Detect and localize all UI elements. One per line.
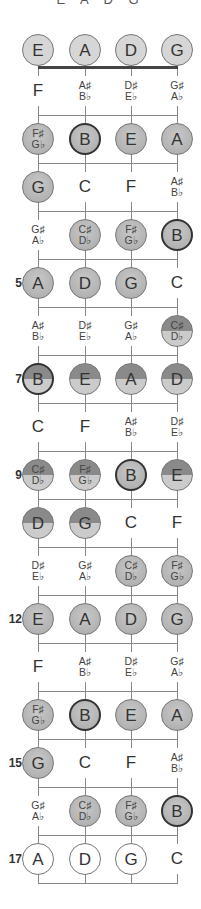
note-marker: C♯D♭ bbox=[69, 219, 101, 251]
note-name: A bbox=[79, 42, 90, 59]
note-cell: F♯G♭ bbox=[113, 217, 149, 253]
note-cell: C bbox=[162, 268, 192, 298]
note-name: A bbox=[171, 707, 182, 724]
note-marker: A bbox=[161, 699, 193, 731]
note-cell: E bbox=[159, 457, 195, 493]
note-label: F bbox=[126, 178, 136, 196]
note-marker: D bbox=[115, 34, 147, 66]
note-flat: A♭ bbox=[78, 571, 91, 582]
note-flat: E♭ bbox=[125, 667, 138, 678]
note-flat: G♭ bbox=[31, 139, 44, 150]
note-cell: G bbox=[159, 32, 195, 68]
note-label: A♯B♭ bbox=[171, 752, 183, 774]
note-cell: G bbox=[113, 841, 149, 877]
note-label: F bbox=[172, 514, 182, 532]
note-cell: C♯D♭ bbox=[113, 553, 149, 589]
note-name: A bbox=[79, 611, 90, 628]
note-name: G bbox=[170, 42, 183, 59]
note-cell: E bbox=[113, 121, 149, 157]
note-marker: E bbox=[161, 459, 193, 491]
note-label: G♯A♭ bbox=[170, 656, 183, 678]
fret-line bbox=[38, 451, 178, 452]
note-marker: A bbox=[69, 603, 101, 635]
note-cell: A♯B♭ bbox=[162, 748, 192, 778]
note-name: B bbox=[171, 227, 182, 244]
note-cell: C♯D♭ bbox=[67, 217, 103, 253]
note-cell: G bbox=[113, 265, 149, 301]
note-name: G bbox=[31, 179, 44, 196]
note-label: F bbox=[126, 754, 136, 772]
note-cell: E bbox=[113, 697, 149, 733]
fret-line bbox=[38, 883, 178, 884]
note-cell: D♯E♭ bbox=[116, 652, 146, 682]
note-marker: A bbox=[69, 34, 101, 66]
note-cell: B bbox=[113, 457, 149, 493]
note-flat: D♭ bbox=[125, 571, 138, 582]
note-name: A bbox=[32, 851, 43, 868]
note-marker: C♯D♭ bbox=[115, 555, 147, 587]
note-cell: B bbox=[67, 121, 103, 157]
fret-line bbox=[38, 499, 178, 500]
note-label: A♯B♭ bbox=[171, 176, 183, 198]
note-cell: A bbox=[67, 601, 103, 637]
note-flat: E♭ bbox=[79, 331, 92, 342]
note-cell: D bbox=[113, 601, 149, 637]
note-cell: F bbox=[23, 76, 53, 106]
note-label: A♯B♭ bbox=[79, 80, 91, 102]
note-marker: G bbox=[22, 171, 54, 203]
fret-line bbox=[38, 739, 178, 740]
note-cell: D♯E♭ bbox=[162, 412, 192, 442]
note-marker: D bbox=[161, 363, 193, 395]
note-name: F bbox=[33, 657, 43, 676]
note-label: D♯E♭ bbox=[79, 320, 92, 342]
note-flat: E♭ bbox=[171, 427, 184, 438]
note-cell: F bbox=[116, 172, 146, 202]
note-marker: F♯G♭ bbox=[69, 459, 101, 491]
note-name: E bbox=[32, 42, 43, 59]
note-label: D♯E♭ bbox=[32, 560, 45, 582]
note-label: D♯E♭ bbox=[125, 656, 138, 678]
note-cell: B bbox=[20, 361, 56, 397]
note-name: E bbox=[79, 371, 90, 388]
note-name: A bbox=[171, 131, 182, 148]
note-cell: B bbox=[159, 217, 195, 253]
note-marker: E bbox=[69, 363, 101, 395]
note-cell: F bbox=[116, 748, 146, 778]
note-marker: D bbox=[69, 267, 101, 299]
fret-line bbox=[38, 595, 178, 596]
note-flat: A♭ bbox=[124, 331, 137, 342]
note-flat: G♭ bbox=[78, 475, 91, 486]
note-cell: C bbox=[70, 172, 100, 202]
note-marker: F♯G♭ bbox=[22, 123, 54, 155]
note-name: D bbox=[171, 371, 183, 388]
note-cell: A♯B♭ bbox=[70, 652, 100, 682]
note-name: C bbox=[32, 417, 44, 436]
note-marker: G bbox=[69, 507, 101, 539]
note-cell: A bbox=[20, 841, 56, 877]
note-flat: D♭ bbox=[79, 811, 92, 822]
note-marker: D bbox=[115, 603, 147, 635]
note-name: B bbox=[32, 371, 43, 388]
note-marker: A bbox=[22, 843, 54, 875]
note-cell: G♯A♭ bbox=[23, 220, 53, 250]
note-marker: E bbox=[22, 34, 54, 66]
note-marker: F♯G♭ bbox=[115, 795, 147, 827]
note-flat: E♭ bbox=[32, 571, 45, 582]
note-marker: A bbox=[22, 267, 54, 299]
fret-line bbox=[38, 835, 178, 836]
note-name: B bbox=[125, 467, 136, 484]
note-label: D♯E♭ bbox=[125, 80, 138, 102]
note-cell: D bbox=[20, 505, 56, 541]
fret-line bbox=[38, 307, 178, 308]
note-name: E bbox=[125, 131, 136, 148]
note-cell: G bbox=[20, 745, 56, 781]
note-name: F bbox=[172, 513, 182, 532]
note-marker: C♯D♭ bbox=[69, 795, 101, 827]
note-marker: G bbox=[115, 843, 147, 875]
note-label: G♯A♭ bbox=[170, 80, 183, 102]
note-cell: G♯A♭ bbox=[23, 796, 53, 826]
note-cell: C♯D♭ bbox=[67, 793, 103, 829]
note-cell: D bbox=[159, 361, 195, 397]
note-label: C bbox=[125, 514, 137, 532]
note-label: C bbox=[79, 754, 91, 772]
